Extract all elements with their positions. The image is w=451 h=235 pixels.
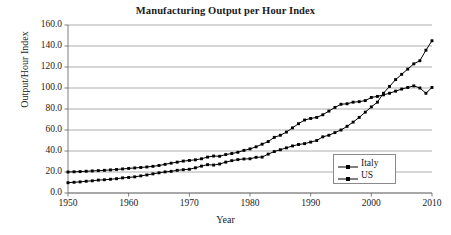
y-tick-label: 100.0 [41,82,62,92]
chart-figure: Manufacturing Output per Hour Index Outp… [0,0,451,235]
x-tick-label: 1950 [43,198,93,208]
y-tick-label: 160.0 [41,19,62,29]
x-tick-label: 1980 [225,198,275,208]
x-tick-label: 2010 [407,198,451,208]
legend-marker-icon [337,170,359,180]
legend-label: Italy [359,158,378,168]
x-tick-label: 1960 [104,198,154,208]
y-tick-label: 80.0 [45,103,62,113]
y-tick-label: 20.0 [45,166,62,176]
legend-label: US [359,170,373,180]
y-tick-label: 60.0 [45,124,62,134]
legend-item-us: US [337,169,391,181]
x-tick-label: 1970 [164,198,214,208]
legend-marker-icon [337,158,359,168]
y-tick-label: 140.0 [41,40,62,50]
x-tick-label: 1990 [286,198,336,208]
legend-item-italy: Italy [337,157,391,169]
y-tick-label: 40.0 [45,145,62,155]
y-tick-label: 120.0 [41,61,62,71]
chart-legend: ItalyUS [333,154,396,184]
y-tick-label: 0.0 [50,187,62,197]
x-tick-label: 2000 [346,198,396,208]
